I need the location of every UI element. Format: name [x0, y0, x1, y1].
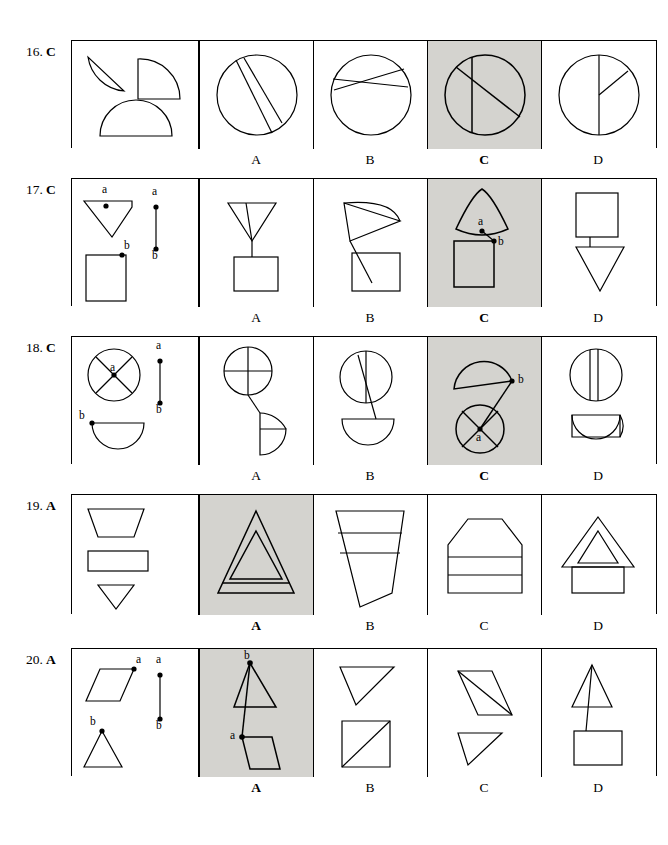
option-label-19-B: B — [313, 618, 427, 634]
point-label-a-20A: a — [230, 729, 235, 741]
point-label-a-ref-20: a — [156, 653, 161, 665]
point-label-a-ref-18: a — [156, 339, 161, 351]
option-cell-16-A[interactable] — [200, 41, 314, 149]
option-label-18-A: A — [199, 468, 313, 484]
option-cell-19-C[interactable] — [428, 495, 542, 615]
point-label-b-stem-18: b — [79, 409, 85, 421]
point-label-b-ref-20: b — [156, 719, 162, 731]
option-label-20-C: C — [427, 780, 541, 796]
stem-cell-18: a b a b — [72, 337, 200, 465]
point-label-b-17C: b — [498, 235, 504, 247]
point-label-b-ref-18: b — [156, 403, 162, 415]
option-label-16-C: C — [427, 152, 541, 168]
options-row-18: a b a b — [71, 336, 657, 464]
option-cell-18-C[interactable]: b a — [428, 337, 542, 465]
point-label-b-stem-20: b — [90, 715, 96, 727]
question-number-20: 20.A — [26, 652, 56, 668]
option-cell-16-D[interactable] — [542, 41, 656, 149]
option-label-19-C: C — [427, 618, 541, 634]
question-answer-text: A — [46, 652, 56, 667]
point-label-a-18C: a — [476, 431, 481, 443]
question-number-text: 16. — [26, 44, 43, 59]
question-answer-text: C — [46, 44, 56, 59]
question-number-text: 19. — [26, 498, 43, 513]
stem-cell-16 — [72, 41, 200, 149]
option-cell-19-B[interactable] — [314, 495, 428, 615]
question-number-text: 20. — [26, 652, 43, 667]
point-label-b-20A: b — [244, 649, 250, 661]
point-label-a-stem: a — [102, 183, 107, 195]
option-label-16-D: D — [541, 152, 655, 168]
option-cell-19-A[interactable] — [200, 495, 314, 615]
option-cell-18-A[interactable] — [200, 337, 314, 465]
options-row-20: a b a b b a — [71, 648, 657, 776]
option-label-16-A: A — [199, 152, 313, 168]
option-cell-20-C[interactable] — [428, 649, 542, 777]
question-block-20: 20.A a b a b — [0, 648, 668, 806]
option-cell-17-D[interactable] — [542, 179, 656, 307]
point-label-a-ref: a — [152, 185, 157, 197]
options-row-17: a b a b — [71, 178, 657, 306]
option-cell-19-D[interactable] — [542, 495, 656, 615]
option-label-18-B: B — [313, 468, 427, 484]
stem-cell-19 — [72, 495, 200, 615]
worksheet-page: 16.C — [0, 0, 668, 845]
question-number-19: 19.A — [26, 498, 56, 514]
question-number-text: 17. — [26, 182, 43, 197]
question-answer-text: C — [46, 182, 56, 197]
point-label-b-18C: b — [518, 373, 524, 385]
point-label-b-stem: b — [124, 239, 130, 251]
options-row-19 — [71, 494, 657, 614]
option-label-17-D: D — [541, 310, 655, 326]
option-label-17-B: B — [313, 310, 427, 326]
option-label-20-B: B — [313, 780, 427, 796]
stem-cell-17: a b a b — [72, 179, 200, 307]
point-label-a-stem-18: a — [110, 361, 115, 373]
question-block-16: 16.C — [0, 40, 668, 178]
option-cell-18-B[interactable] — [314, 337, 428, 465]
question-block-17: 17.C a b — [0, 178, 668, 336]
option-cell-17-A[interactable] — [200, 179, 314, 307]
option-label-20-A: A — [199, 780, 313, 796]
option-label-19-D: D — [541, 618, 655, 634]
question-number-16: 16.C — [26, 44, 56, 60]
option-labels-17: A B C D — [71, 310, 655, 326]
option-label-18-C: C — [427, 468, 541, 484]
option-labels-18: A B C D — [71, 468, 655, 484]
point-label-a-17C: a — [478, 215, 483, 227]
question-number-17: 17.C — [26, 182, 56, 198]
option-cell-16-B[interactable] — [314, 41, 428, 149]
question-number-text: 18. — [26, 340, 43, 355]
stem-cell-20: a b a b — [72, 649, 200, 777]
option-label-19-A: A — [199, 618, 313, 634]
point-label-b-ref: b — [152, 249, 158, 261]
option-cell-17-B[interactable] — [314, 179, 428, 307]
option-labels-19: A B C D — [71, 618, 655, 634]
option-cell-20-B[interactable] — [314, 649, 428, 777]
option-cell-16-C[interactable] — [428, 41, 542, 149]
question-block-19: 19.A — [0, 494, 668, 648]
option-labels-16: A B C D — [71, 152, 655, 168]
option-label-18-D: D — [541, 468, 655, 484]
option-labels-20: A B C D — [71, 780, 655, 796]
options-row-16 — [71, 40, 657, 148]
option-cell-17-C[interactable]: a b — [428, 179, 542, 307]
question-number-18: 18.C — [26, 340, 56, 356]
question-answer-text: C — [46, 340, 56, 355]
option-label-17-A: A — [199, 310, 313, 326]
question-block-18: 18.C a b a b — [0, 336, 668, 494]
question-answer-text: A — [46, 498, 56, 513]
option-label-16-B: B — [313, 152, 427, 168]
option-label-17-C: C — [427, 310, 541, 326]
option-cell-18-D[interactable] — [542, 337, 656, 465]
point-label-a-stem-20: a — [136, 653, 141, 665]
option-label-20-D: D — [541, 780, 655, 796]
option-cell-20-A[interactable]: b a — [200, 649, 314, 777]
option-cell-20-D[interactable] — [542, 649, 656, 777]
